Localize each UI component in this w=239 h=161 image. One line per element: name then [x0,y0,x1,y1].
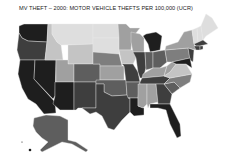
us-choropleth-map [0,0,239,161]
state-OH [153,50,167,68]
state-IN [145,52,153,70]
state-MT [52,24,93,45]
state-ME [201,14,218,40]
state-FL [150,104,181,138]
state-NM [74,82,96,110]
state-AK [33,115,88,152]
state-NY [165,30,196,50]
state-SD [93,38,119,54]
state-WY [68,44,93,64]
state-HI-island-2 [21,141,22,142]
state-KS [100,66,124,80]
state-ND [93,24,119,38]
state-WI [131,32,144,52]
state-MS [138,84,147,108]
state-HI [29,149,32,152]
state-MI [143,32,162,52]
state-RI [200,46,203,50]
state-CO [74,64,100,82]
state-NE [93,52,122,66]
state-AZ [53,82,74,110]
